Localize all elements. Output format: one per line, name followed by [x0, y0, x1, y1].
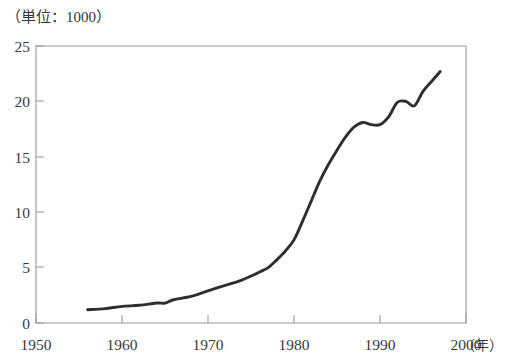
x-tick-label-1990: 1990	[365, 336, 396, 353]
data-series-line	[88, 71, 441, 309]
y-tick-label-20: 20	[15, 93, 31, 110]
x-tick-label-1980: 1980	[279, 336, 310, 353]
y-tick-label-5: 5	[22, 259, 30, 276]
x-axis-unit-label: （年）	[461, 338, 503, 353]
chart-figure: （単位：1000） 25 20 15 10	[0, 0, 518, 362]
x-tick-label-1960: 1960	[107, 336, 138, 353]
x-axis-tick-labels: 1950 1960 1970 1980 1990 2000 （年）	[21, 336, 504, 353]
y-tick-label-25: 25	[15, 38, 31, 55]
x-axis-ticks	[36, 313, 466, 323]
plot-frame	[36, 46, 466, 323]
y-tick-label-0: 0	[22, 315, 30, 332]
x-tick-label-1970: 1970	[193, 336, 224, 353]
y-axis-ticks	[36, 46, 44, 323]
x-tick-label-1950: 1950	[21, 336, 52, 353]
line-chart-plot: 25 20 15 10 5 0 1950 1960 1970 1980 1990…	[0, 0, 518, 362]
y-axis-tick-labels: 25 20 15 10 5 0	[15, 38, 31, 332]
y-tick-label-10: 10	[15, 204, 31, 221]
y-tick-label-15: 15	[15, 149, 31, 166]
axis-frame-rect	[36, 46, 466, 323]
